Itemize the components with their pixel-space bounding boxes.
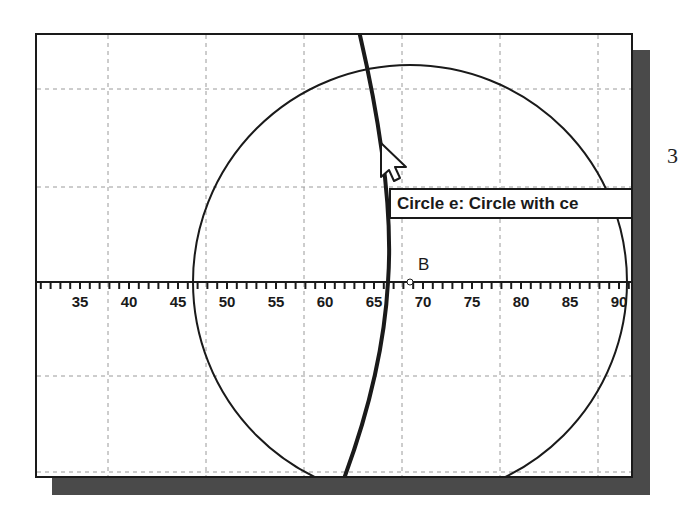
x-axis-ruler: 354045505560657075808590 bbox=[37, 282, 633, 310]
axis-tick-label: 65 bbox=[366, 293, 383, 310]
axis-tick-label: 80 bbox=[513, 293, 530, 310]
partial-edge-text: 3 bbox=[667, 143, 678, 169]
point-b-label: B bbox=[418, 255, 429, 275]
circle-e[interactable] bbox=[193, 65, 627, 478]
axis-tick-label: 35 bbox=[72, 293, 89, 310]
grid-lines bbox=[37, 35, 633, 478]
axis-tick-label: 75 bbox=[464, 293, 481, 310]
axis-tick-label: 70 bbox=[415, 293, 432, 310]
point-b[interactable] bbox=[407, 279, 413, 285]
axis-tick-label: 60 bbox=[317, 293, 334, 310]
thick-circle-arc[interactable] bbox=[342, 35, 389, 478]
geometry-canvas[interactable]: 354045505560657075808590 B Circle e: Cir… bbox=[35, 33, 633, 478]
axis-tick-label: 50 bbox=[219, 293, 236, 310]
drawing-surface[interactable]: 354045505560657075808590 bbox=[37, 35, 633, 478]
axis-tick-label: 45 bbox=[170, 293, 187, 310]
axis-tick-label: 40 bbox=[121, 293, 138, 310]
axis-tick-label: 55 bbox=[268, 293, 285, 310]
axis-tick-label: 85 bbox=[562, 293, 579, 310]
object-tooltip: Circle e: Circle with ce bbox=[389, 188, 633, 219]
